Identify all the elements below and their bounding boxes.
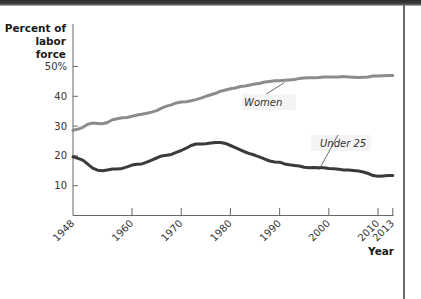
y-tick-label: 50% — [45, 61, 67, 72]
annotation-leader-line — [266, 83, 284, 94]
x-tick-label: 1970 — [159, 218, 185, 244]
x-tick-label: 1990 — [257, 218, 283, 244]
x-axis-ticks: 19481960197019801990200020102013 — [51, 208, 397, 243]
x-tick-label: 1980 — [208, 218, 234, 244]
line-chart: 1020304050% 1948196019701980199020002010… — [0, 0, 421, 299]
series-line-women — [73, 75, 393, 130]
series-lines — [73, 75, 393, 176]
x-tick-label: 1948 — [51, 218, 77, 244]
x-tick-label: 2000 — [306, 218, 332, 244]
x-tick-label: 1960 — [110, 218, 136, 244]
annotation-label-women: Women — [244, 97, 282, 108]
y-tick-label: 30 — [54, 121, 67, 132]
y-tick-label: 40 — [54, 91, 67, 102]
annotation-label-under-25: Under 25 — [320, 138, 366, 149]
y-tick-label: 10 — [54, 180, 67, 191]
y-tick-label: 20 — [54, 150, 67, 161]
